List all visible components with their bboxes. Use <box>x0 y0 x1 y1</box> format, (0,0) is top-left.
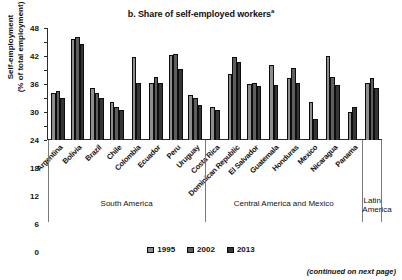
bar <box>80 44 85 140</box>
region-groups: South AmericaCentral America and MexicoL… <box>47 140 382 222</box>
bar-group <box>166 28 186 140</box>
region-label-line1: Latin <box>362 196 382 205</box>
legend-label: 2002 <box>197 245 215 254</box>
bar <box>136 83 141 140</box>
bar-group <box>127 28 147 140</box>
bar <box>119 110 124 140</box>
bar-group <box>303 28 323 140</box>
bar-group <box>225 28 245 140</box>
bar-group <box>48 28 68 140</box>
y-tick-mark: 12 <box>44 112 47 113</box>
legend-label: 2013 <box>237 245 255 254</box>
chart-legend: 199520022013 <box>0 245 402 254</box>
y-tick-mark: 6 <box>44 126 47 127</box>
bars-layer <box>48 28 382 140</box>
bar <box>313 119 318 140</box>
region-label: LatinAmerica <box>362 196 382 214</box>
y-tick-mark: 42 <box>44 42 47 43</box>
plot-area: 0612182430364248 <box>47 28 382 140</box>
bar <box>335 85 340 140</box>
y-tick-mark: 36 <box>44 56 47 57</box>
bar <box>198 105 203 140</box>
chart-title: b. Share of self-employed workersa <box>0 8 402 19</box>
y-tick-label: 42 <box>30 52 39 61</box>
region-separator <box>48 140 49 222</box>
bar-group <box>284 28 304 140</box>
region-label-line2: America <box>362 205 382 214</box>
legend-swatch <box>147 247 154 253</box>
bar-group <box>362 28 382 140</box>
bar <box>237 62 242 140</box>
bar-group <box>244 28 264 140</box>
bar-group <box>343 28 363 140</box>
legend-item: 2013 <box>227 245 255 254</box>
bar <box>158 83 163 140</box>
bar <box>374 88 379 141</box>
bar-group <box>107 28 127 140</box>
chart-title-text: b. Share of self-employed workers <box>128 9 271 19</box>
y-axis-label-line2: (% of total employment) <box>16 0 26 98</box>
bar-group <box>323 28 343 140</box>
bar <box>178 69 183 140</box>
y-tick-label: 24 <box>30 136 39 145</box>
bar <box>352 107 357 140</box>
bar-group <box>264 28 284 140</box>
y-axis-label: Self-employment (% of total employment) <box>6 0 28 98</box>
bar <box>296 83 301 140</box>
region-label: Central America and Mexico <box>205 199 362 208</box>
y-axis-label-line1: Self-employment <box>6 0 16 98</box>
legend-label: 1995 <box>157 245 175 254</box>
y-tick-mark: 48 <box>44 28 47 29</box>
y-tick-label: 48 <box>30 24 39 33</box>
y-tick-mark: 24 <box>44 84 47 85</box>
legend-swatch <box>227 247 234 253</box>
bar-group <box>185 28 205 140</box>
region-separator <box>205 140 206 222</box>
bar-group <box>87 28 107 140</box>
y-tick-mark: 18 <box>44 98 47 99</box>
legend-swatch <box>187 247 194 253</box>
bar <box>257 86 262 140</box>
chart-title-superscript: a <box>271 8 274 14</box>
legend-item: 2002 <box>187 245 215 254</box>
y-tick-label: 30 <box>30 108 39 117</box>
continued-note: (continued on next page) <box>307 267 396 276</box>
region-label: South America <box>48 199 205 208</box>
bar-group <box>146 28 166 140</box>
chart-figure: b. Share of self-employed workersa Self-… <box>0 0 402 280</box>
bar <box>99 98 104 140</box>
y-tick-label: 12 <box>30 192 39 201</box>
bar <box>274 85 279 140</box>
y-tick-label: 6 <box>35 220 39 229</box>
y-tick-label: 36 <box>30 80 39 89</box>
bar-group <box>205 28 225 140</box>
bar <box>215 110 220 140</box>
legend-item: 1995 <box>147 245 175 254</box>
bar-group <box>68 28 88 140</box>
bar <box>60 98 65 140</box>
y-tick-mark: 30 <box>44 70 47 71</box>
